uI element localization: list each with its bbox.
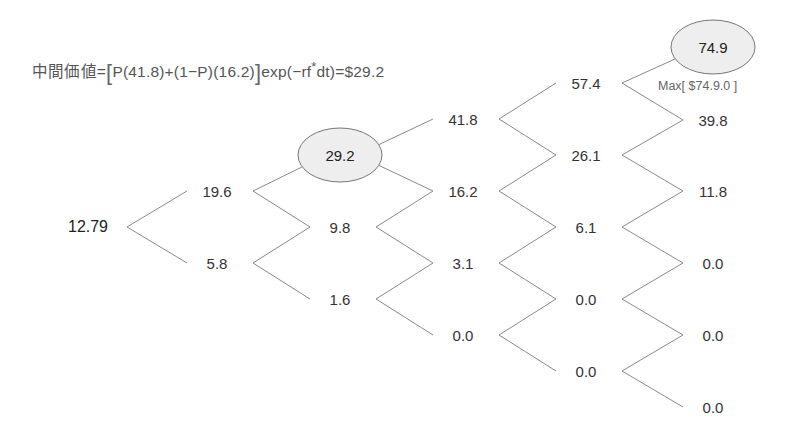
tree-edge: [622, 227, 683, 263]
node-value: 0.0: [703, 399, 724, 416]
tree-edge: [378, 165, 433, 191]
node-value: 26.1: [571, 147, 600, 164]
formula-body: P(41.8)+(1−P)(16.2): [112, 63, 255, 80]
tree-edge: [499, 299, 556, 335]
tree-edge: [499, 335, 556, 371]
node-value: 16.2: [448, 183, 477, 200]
tree-edge: [499, 83, 556, 119]
tree-edge: [622, 335, 683, 371]
intermediate-value-formula: 中間価値=[P(41.8)+(1−P)(16.2)]exp(−rf*dt)=$2…: [32, 59, 384, 86]
node-value: 11.8: [699, 183, 727, 200]
tree-edge: [622, 263, 683, 299]
tree-edge: [499, 227, 556, 263]
tree-edge: [622, 155, 683, 191]
node-value: 0.0: [453, 327, 474, 344]
tree-edge: [499, 119, 556, 155]
formula-equals: =: [97, 63, 106, 80]
node-value: 6.1: [576, 219, 597, 236]
node-value: 57.4: [571, 75, 600, 92]
tree-edge: [622, 371, 683, 407]
node-value: 0.0: [703, 255, 724, 272]
formula-discount-post: dt)=$29.2: [317, 63, 385, 80]
node-value: 0.0: [703, 327, 724, 344]
tree-edge: [253, 191, 310, 227]
tree-edge: [499, 155, 556, 191]
node-value: 19.6: [202, 183, 231, 200]
tree-edge: [622, 299, 683, 335]
tree-edge: [622, 120, 683, 155]
tree-edge: [378, 119, 433, 145]
highlighted-node-value: 29.2: [325, 147, 354, 164]
node-value: 41.8: [448, 111, 477, 128]
tree-edge: [253, 167, 302, 191]
tree-edge: [253, 263, 310, 299]
tree-edge: [376, 227, 433, 263]
max-payoff-note: Max[ $74.9.0 ]: [658, 79, 737, 93]
tree-edge: [376, 191, 433, 227]
tree-edge: [622, 191, 683, 227]
node-value: 0.0: [576, 291, 597, 308]
tree-edge: [376, 299, 433, 335]
node-value: 3.1: [453, 255, 474, 272]
tree-edge: [499, 263, 556, 299]
node-value: 9.8: [330, 219, 351, 236]
highlighted-node-value: 74.9: [698, 39, 727, 56]
tree-edge: [127, 191, 187, 227]
tree-edge: [253, 227, 310, 263]
node-value: 12.79: [68, 218, 108, 236]
formula-label: 中間価値: [32, 63, 97, 80]
node-value: 1.6: [330, 291, 351, 308]
tree-edge: [499, 191, 556, 227]
node-value: 39.8: [698, 112, 727, 129]
node-value: 0.0: [576, 363, 597, 380]
tree-edge: [376, 263, 433, 299]
node-value: 5.8: [207, 255, 228, 272]
formula-discount-pre: exp(−rf: [261, 63, 311, 80]
tree-edge: [127, 227, 187, 263]
